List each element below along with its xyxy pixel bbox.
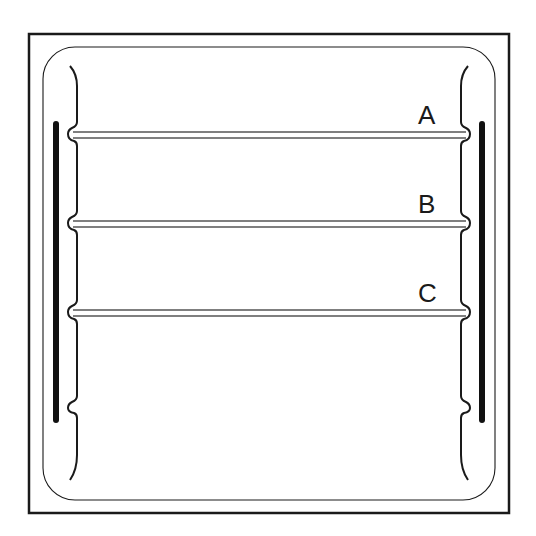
left-wall-profile [68,66,77,480]
shelf-a [73,132,466,138]
shelf-label-a: A [418,102,435,128]
shelf-label-c: C [418,280,437,306]
cabinet-drawing [0,0,536,536]
outer-frame [29,34,509,513]
right-wall-profile [461,66,470,480]
shelf-label-b: B [418,191,435,217]
shelf-b [73,221,466,227]
shelf-c [73,310,466,316]
